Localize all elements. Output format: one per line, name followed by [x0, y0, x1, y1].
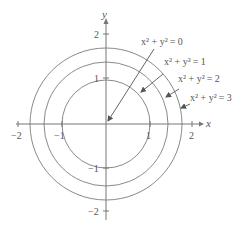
x-tick-label-neg2: −2 — [11, 130, 22, 141]
arrow-c0 — [108, 49, 154, 121]
level-curves-diagram: x −2 −1 1 2 y 2 1 −1 −2 x² + y²= 0 x² + … — [0, 0, 237, 251]
y-tick-label-neg1: −1 — [88, 163, 99, 174]
arrow-c1 — [141, 74, 163, 92]
equation-label-c3: x² + y²= 3 — [190, 92, 232, 103]
equation-label-c1: x² + y²= 1 — [164, 56, 206, 67]
y-axis-label: y — [101, 8, 107, 20]
arrow-c3 — [181, 104, 190, 108]
x-axis-label: x — [205, 117, 211, 129]
x-tick-label-neg1: −1 — [54, 130, 65, 141]
equation-label-c2: x² + y²= 2 — [178, 73, 220, 84]
y-tick-label-1: 1 — [94, 73, 99, 84]
x-tick-label-1: 1 — [146, 130, 151, 141]
y-tick-label-2: 2 — [94, 29, 99, 40]
equation-label-c0: x² + y²= 0 — [141, 36, 183, 47]
y-tick-label-neg2: −2 — [88, 206, 99, 217]
x-tick-label-2: 2 — [189, 130, 194, 141]
